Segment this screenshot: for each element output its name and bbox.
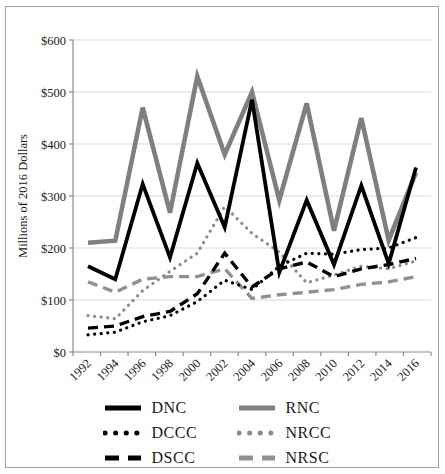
y-tick-label: $400 [41,138,66,152]
x-tick-label: 1996 [121,356,149,384]
y-tick-label: $100 [41,294,66,308]
legend-label: DSCC [152,449,196,467]
legend-item-dnc: DNC [103,397,209,419]
legend-label: NRSC [286,449,330,467]
x-tick-label: 2004 [231,356,259,384]
legend-swatch-rnc [237,403,277,413]
legend-swatch-nrcc [237,428,277,438]
x-tick-label: 2010 [313,356,341,384]
y-tick-label: $500 [41,86,66,100]
legend-item-rnc: RNC [237,397,343,419]
y-tick-label: $300 [41,190,66,204]
legend-label: NRCC [286,424,332,442]
legend-swatch-dccc [103,428,143,438]
x-tick-label: 1994 [94,356,122,384]
y-tick-label: $600 [41,34,66,48]
x-tick-label: 2016 [395,356,423,384]
y-tick-label: $200 [41,242,66,256]
chart-plot-area: $0$100$200$300$400$500$600 1992199419961… [0,0,445,396]
series-line-nrcc [88,206,416,318]
series-line-nrsc [88,269,416,299]
gridlines [73,40,431,300]
party-finance-line-chart-figure: $0$100$200$300$400$500$600 1992199419961… [0,0,445,474]
x-tick-label: 2014 [367,356,395,384]
y-axis-ticks: $0$100$200$300$400$500$600 [41,34,73,360]
legend-label: DNC [152,399,187,417]
legend-item-dccc: DCCC [103,422,209,444]
x-tick-label: 2006 [258,356,286,384]
series-lines [88,76,416,334]
legend-item-nrcc: NRCC [237,422,343,444]
x-tick-label: 2012 [340,356,368,384]
legend-label: RNC [286,399,320,417]
x-axis-ticks: 1992199419961998200020022004200620082010… [67,352,431,384]
legend-swatch-dnc [103,403,143,413]
legend-item-dscc: DSCC [103,447,209,469]
legend-swatch-nrsc [237,453,277,463]
x-tick-label: 1998 [149,356,177,384]
legend-swatch-dscc [103,453,143,463]
legend-label: DCCC [152,424,198,442]
chart-legend: DNCRNCDCCCNRCCDSCCNRSC [0,397,445,469]
legend-item-nrsc: NRSC [237,447,343,469]
x-tick-label: 2000 [176,356,204,384]
y-axis-title: Millions of 2016 Dollars [16,134,30,258]
x-tick-label: 2002 [203,356,231,384]
x-tick-label: 2008 [285,356,313,384]
x-tick-label: 1992 [67,356,95,384]
y-tick-label: $0 [54,346,67,360]
